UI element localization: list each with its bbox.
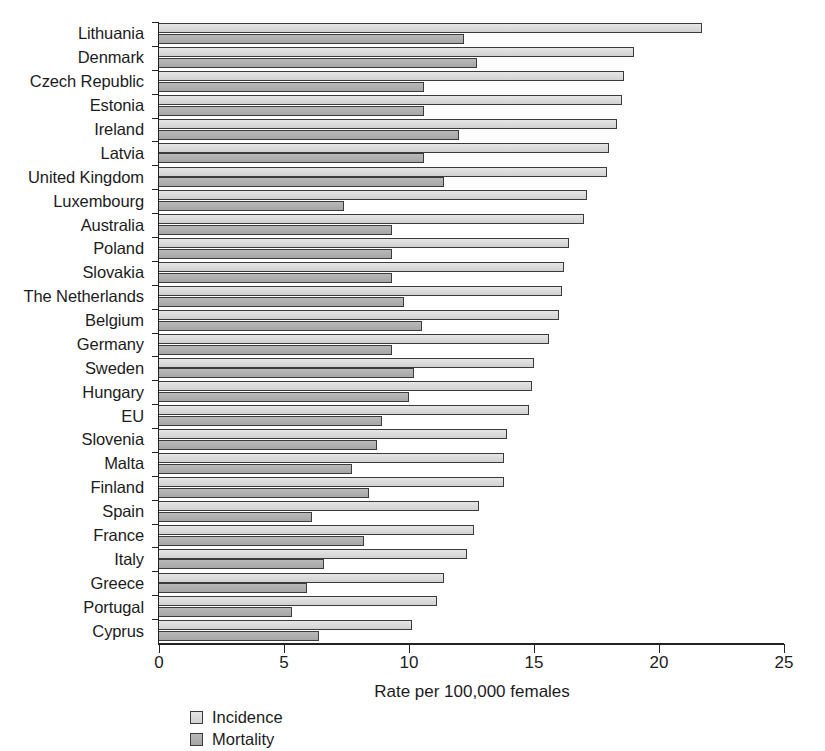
bar-mortality <box>159 273 392 283</box>
x-axis-tick <box>784 644 785 653</box>
bar-incidence <box>159 190 587 200</box>
bar-mortality <box>159 249 392 259</box>
legend-label-incidence: Incidence <box>212 709 283 726</box>
x-axis-tick <box>159 644 160 653</box>
bar-incidence <box>159 95 622 105</box>
legend-item-incidence: Incidence <box>190 706 450 728</box>
y-axis-label: Germany <box>77 336 144 353</box>
legend-swatch-incidence-icon <box>190 711 203 724</box>
bar-incidence <box>159 429 507 439</box>
bar-mortality <box>159 416 382 426</box>
bar-incidence <box>159 23 702 33</box>
x-axis-tick-label: 0 <box>154 654 163 671</box>
x-axis-tick-label: 5 <box>279 654 288 671</box>
bar-mortality <box>159 512 312 522</box>
bar-incidence <box>159 525 474 535</box>
y-axis-label: Slovakia <box>82 264 144 281</box>
x-axis-tick-label: 25 <box>775 654 794 671</box>
x-axis-title: Rate per 100,000 females <box>159 682 785 702</box>
bar-mortality <box>159 177 444 187</box>
plot-area <box>159 22 784 643</box>
y-axis-label: Cyprus <box>92 623 144 640</box>
y-axis-label: Finland <box>91 479 144 496</box>
y-axis-label: Lithuania <box>78 25 144 42</box>
y-axis-label: Spain <box>102 503 144 520</box>
x-axis-tick <box>659 644 660 653</box>
y-axis-label: Greece <box>90 575 144 592</box>
x-axis-tick <box>534 644 535 653</box>
y-axis-label: United Kingdom <box>28 169 144 186</box>
bar-incidence <box>159 381 532 391</box>
y-axis-label: Czech Republic <box>30 73 144 90</box>
x-axis-tick <box>409 644 410 653</box>
bar-incidence <box>159 620 412 630</box>
bar-incidence <box>159 214 584 224</box>
bar-mortality <box>159 583 307 593</box>
y-axis-label: Luxembourg <box>53 193 144 210</box>
bar-incidence <box>159 573 444 583</box>
bar-mortality <box>159 321 422 331</box>
bar-mortality <box>159 464 352 474</box>
bar-incidence <box>159 47 634 57</box>
bar-mortality <box>159 607 292 617</box>
bar-chart: LithuaniaDenmarkCzech RepublicEstoniaIre… <box>0 0 825 751</box>
y-axis-label: Slovenia <box>82 431 145 448</box>
y-axis-label: Malta <box>104 455 144 472</box>
y-axis-label: Sweden <box>85 360 144 377</box>
bar-mortality <box>159 34 464 44</box>
legend-item-mortality: Mortality <box>190 728 450 750</box>
y-axis-label: France <box>93 527 144 544</box>
bar-incidence <box>159 358 534 368</box>
bar-incidence <box>159 453 504 463</box>
bar-mortality <box>159 58 477 68</box>
bar-mortality <box>159 82 424 92</box>
y-axis-category-labels: LithuaniaDenmarkCzech RepublicEstoniaIre… <box>0 22 152 643</box>
y-axis-label: The Netherlands <box>24 288 145 305</box>
bar-incidence <box>159 167 607 177</box>
x-axis-tick-label: 10 <box>400 654 419 671</box>
x-axis-tick-label: 20 <box>650 654 669 671</box>
bar-incidence <box>159 119 617 129</box>
chart-legend: Incidence Mortality <box>190 706 450 750</box>
bar-mortality <box>159 297 404 307</box>
y-axis-label: Poland <box>93 240 144 257</box>
y-axis-label: Australia <box>81 217 144 234</box>
x-axis-tick <box>284 644 285 653</box>
bar-incidence <box>159 286 562 296</box>
y-axis-label: Portugal <box>83 599 144 616</box>
legend-swatch-mortality-icon <box>190 733 203 746</box>
y-axis-label: Hungary <box>82 384 144 401</box>
bar-incidence <box>159 596 437 606</box>
bar-incidence <box>159 405 529 415</box>
bar-incidence <box>159 238 569 248</box>
legend-label-mortality: Mortality <box>212 731 274 748</box>
y-axis-label: Latvia <box>101 145 144 162</box>
bar-mortality <box>159 536 364 546</box>
bar-incidence <box>159 310 559 320</box>
bar-mortality <box>159 153 424 163</box>
bar-mortality <box>159 392 409 402</box>
bar-mortality <box>159 106 424 116</box>
bar-incidence <box>159 143 609 153</box>
y-axis-label: EU <box>121 408 144 425</box>
bar-mortality <box>159 559 324 569</box>
bar-incidence <box>159 477 504 487</box>
bar-incidence <box>159 334 549 344</box>
bar-mortality <box>159 488 369 498</box>
x-axis-tick-label: 15 <box>525 654 544 671</box>
bar-incidence <box>159 262 564 272</box>
bar-mortality <box>159 201 344 211</box>
y-axis-label: Ireland <box>94 121 144 138</box>
bar-mortality <box>159 631 319 641</box>
x-axis-tick-labels: 0510152025 <box>0 654 825 678</box>
y-axis-label: Belgium <box>85 312 144 329</box>
bar-mortality <box>159 130 459 140</box>
bar-mortality <box>159 368 414 378</box>
x-axis-tickmarks <box>159 644 785 653</box>
y-axis-label: Estonia <box>90 97 144 114</box>
y-axis-label: Denmark <box>78 49 144 66</box>
y-axis-label: Italy <box>114 551 144 568</box>
bar-mortality <box>159 440 377 450</box>
bar-incidence <box>159 549 467 559</box>
bar-incidence <box>159 71 624 81</box>
